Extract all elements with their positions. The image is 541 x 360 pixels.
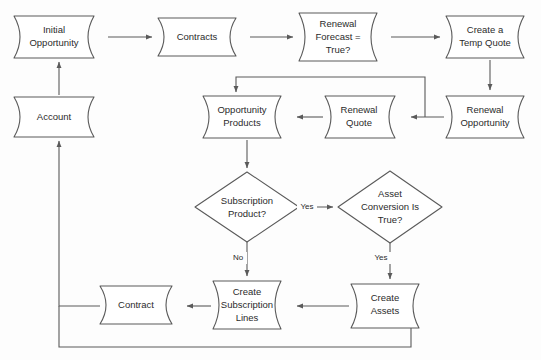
node-label-renewal-forecast-line3: True? <box>326 44 350 55</box>
node-initial-opportunity[interactable]: Initial Opportunity <box>14 16 94 58</box>
edge-label-no-subscription: No <box>233 253 244 262</box>
node-contract[interactable]: Contract <box>100 286 172 324</box>
node-label-subscription-product-line1: Subscription <box>221 195 273 206</box>
node-subscription-product[interactable]: Subscription Product? <box>195 172 299 242</box>
node-label-create-temp-quote-line1: Create a <box>467 24 504 35</box>
node-label-opportunity-products-line2: Products <box>223 117 261 128</box>
node-label-asset-conversion-line1: Asset <box>378 188 402 199</box>
node-label-renewal-quote-line1: Renewal <box>341 104 378 115</box>
edge-contract-to-account <box>59 141 100 306</box>
node-label-create-subscription-lines-line3: Lines <box>236 312 259 323</box>
node-contracts[interactable]: Contracts <box>158 18 236 56</box>
node-label-initial-opportunity-line2: Opportunity <box>29 37 78 48</box>
node-label-renewal-opportunity-line2: Opportunity <box>460 117 509 128</box>
node-label-initial-opportunity-line1: Initial <box>43 24 65 35</box>
node-create-assets[interactable]: Create Assets <box>351 284 419 328</box>
node-label-renewal-quote-line2: Quote <box>346 117 372 128</box>
node-label-create-temp-quote-line2: Temp Quote <box>459 37 511 48</box>
flowchart-svg: Initial Opportunity Contracts Renewal Fo… <box>0 0 541 360</box>
node-label-renewal-forecast-line1: Renewal <box>320 18 357 29</box>
node-account[interactable]: Account <box>14 97 94 137</box>
node-label-create-assets-line1: Create <box>371 292 400 303</box>
node-label-contract: Contract <box>118 299 154 310</box>
node-layer: Initial Opportunity Contracts Renewal Fo… <box>14 13 524 329</box>
node-opportunity-products[interactable]: Opportunity Products <box>203 96 281 138</box>
node-asset-conversion[interactable]: Asset Conversion Is True? <box>338 171 442 243</box>
node-renewal-forecast[interactable]: Renewal Forecast = True? <box>299 13 377 61</box>
node-create-subscription-lines[interactable]: Create Subscription Lines <box>213 281 281 329</box>
node-label-asset-conversion-line2: Conversion Is <box>361 201 419 212</box>
node-renewal-opportunity[interactable]: Renewal Opportunity <box>446 96 524 138</box>
node-label-account: Account <box>37 111 72 122</box>
node-label-opportunity-products-line1: Opportunity <box>217 104 266 115</box>
node-create-temp-quote[interactable]: Create a Temp Quote <box>446 16 524 58</box>
edge-label-yes-asset: Yes <box>374 253 387 262</box>
node-label-create-assets-line2: Assets <box>371 305 400 316</box>
node-label-create-subscription-lines-line2: Subscription <box>221 299 273 310</box>
node-label-asset-conversion-line3: True? <box>378 214 402 225</box>
node-label-renewal-opportunity-line1: Renewal <box>467 104 504 115</box>
flowchart-canvas: Initial Opportunity Contracts Renewal Fo… <box>0 0 541 360</box>
node-label-contracts: Contracts <box>177 31 218 42</box>
node-label-create-subscription-lines-line1: Create <box>233 286 262 297</box>
node-label-subscription-product-line2: Product? <box>228 208 266 219</box>
node-renewal-quote[interactable]: Renewal Quote <box>325 96 395 138</box>
edge-label-yes-subscription: Yes <box>300 202 313 211</box>
node-label-renewal-forecast-line2: Forecast = <box>315 31 361 42</box>
